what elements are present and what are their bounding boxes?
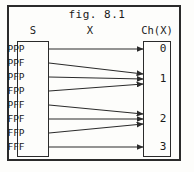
domain-item: PPP bbox=[0, 44, 32, 54]
domain-item: FPP bbox=[0, 86, 32, 96]
codomain-item: 0 bbox=[149, 43, 177, 54]
codomain-item: 3 bbox=[149, 141, 177, 152]
figure-container: fig. 8.1 S X Ch(X) PPPPPFPFPFPPPFFFPFFFP… bbox=[0, 0, 194, 172]
domain-item: FPF bbox=[0, 114, 32, 124]
codomain-item: 1 bbox=[149, 73, 177, 84]
domain-item: PFF bbox=[0, 100, 32, 110]
codomain-set-box bbox=[143, 41, 171, 157]
domain-item: PFP bbox=[0, 72, 32, 82]
column-header-function: X bbox=[75, 24, 105, 36]
domain-item: PPF bbox=[0, 58, 32, 68]
column-header-domain: S bbox=[17, 24, 49, 36]
column-header-codomain: Ch(X) bbox=[136, 24, 178, 36]
domain-item: FFF bbox=[0, 142, 32, 152]
figure-title: fig. 8.1 bbox=[0, 8, 194, 21]
domain-item: FFP bbox=[0, 128, 32, 138]
codomain-item: 2 bbox=[149, 113, 177, 124]
